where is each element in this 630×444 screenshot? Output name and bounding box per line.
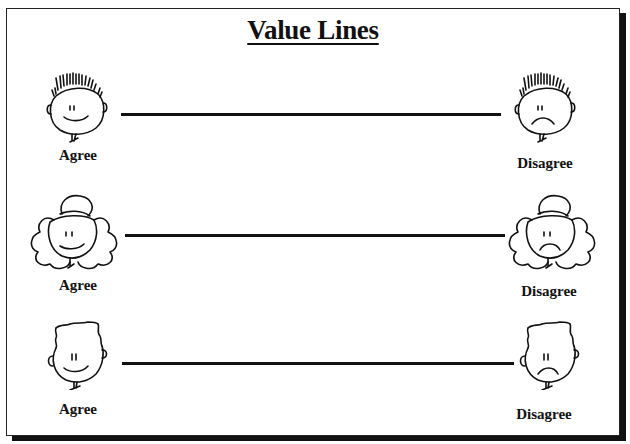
title-text: Value Lines [247, 15, 379, 45]
disagree-label: Disagree [499, 406, 589, 423]
agree-label: Agree [48, 401, 108, 418]
disagree-face-icon [512, 72, 582, 144]
disagree-label: Disagree [500, 155, 590, 172]
agree-label: Agree [48, 147, 108, 164]
value-line-3[interactable] [122, 362, 514, 365]
agree-face-icon [44, 318, 114, 390]
disagree-face-icon [502, 192, 602, 274]
value-line-2[interactable] [125, 234, 505, 237]
value-line-1[interactable] [121, 113, 501, 116]
agree-label: Agree [48, 277, 108, 294]
agree-face-icon [44, 72, 114, 144]
page-title: Value Lines [7, 15, 619, 46]
disagree-label: Disagree [504, 283, 594, 300]
disagree-face-icon [516, 318, 586, 390]
agree-face-icon [24, 192, 124, 274]
